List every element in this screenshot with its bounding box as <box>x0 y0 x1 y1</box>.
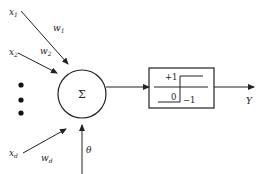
ellipsis-dot <box>18 97 23 102</box>
output-label: Y <box>246 96 253 106</box>
w1-label: w1 <box>53 23 65 34</box>
activation-plus-one: +1 <box>165 72 178 82</box>
wd-label: wd <box>41 153 53 164</box>
x1-label: x1 <box>9 7 18 18</box>
edge-x1 <box>21 11 68 64</box>
w2-label: w2 <box>40 46 52 57</box>
x2-label: x2 <box>9 47 18 58</box>
bias-label: θ <box>86 145 92 155</box>
ellipsis-dot <box>18 110 23 115</box>
diagram-svg: Σ +1 0 −1 Y x1 w1 x2 w2 xd wd θ <box>0 0 261 174</box>
activation-minus-one: −1 <box>183 95 196 105</box>
summation-symbol: Σ <box>78 88 86 101</box>
edge-xd <box>23 129 66 153</box>
ellipsis-dot <box>18 82 23 87</box>
xd-label: xd <box>9 148 18 159</box>
perceptron-diagram: Σ +1 0 −1 Y x1 w1 x2 w2 xd wd θ <box>0 0 261 174</box>
activation-zero: 0 <box>171 92 176 102</box>
